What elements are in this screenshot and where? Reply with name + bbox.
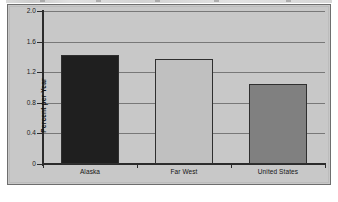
scan-artifact-dot bbox=[155, 0, 160, 2]
scan-artifact-dot bbox=[96, 0, 101, 2]
scan-artifact-dot bbox=[214, 0, 219, 2]
scan-artifact-strip bbox=[6, 0, 332, 3]
x-axis-tick bbox=[137, 164, 138, 168]
x-axis-category-label: United States bbox=[231, 168, 325, 175]
chart-figure: 00.40.81.21.62.0 Percent per Year Alaska… bbox=[0, 0, 338, 202]
x-axis-tick bbox=[325, 164, 326, 168]
scan-artifact-dot bbox=[40, 0, 45, 2]
bar bbox=[249, 84, 307, 164]
x-axis-category-label: Alaska bbox=[43, 168, 137, 175]
y-axis-tick-label: 2.0 bbox=[2, 7, 36, 14]
y-axis-tick-label: 0 bbox=[2, 160, 36, 167]
scan-artifact-dot bbox=[286, 0, 291, 2]
bar bbox=[61, 55, 119, 164]
x-axis-category-label: Far West bbox=[137, 168, 231, 175]
bars-group bbox=[43, 11, 325, 164]
y-axis-title-wrap: Percent per Year bbox=[12, 40, 26, 150]
bar bbox=[155, 59, 213, 164]
x-axis-tick bbox=[43, 164, 44, 168]
x-axis-tick bbox=[231, 164, 232, 168]
